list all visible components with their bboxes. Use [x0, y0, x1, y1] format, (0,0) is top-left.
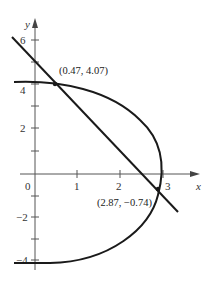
graph: 1 2 3 0 6 4 2 −2 −4 y x (0.47, 4.07) (2.… — [0, 0, 210, 289]
line — [12, 37, 178, 212]
tick-y-2: 2 — [20, 122, 26, 134]
axes — [20, 22, 196, 270]
y-axis-arrow-icon — [32, 18, 38, 28]
tick-y-m4: −4 — [16, 254, 28, 266]
tick-x-1: 1 — [74, 180, 80, 192]
intersection-label-1: (0.47, 4.07) — [59, 65, 108, 77]
intersection-point-2 — [156, 187, 160, 191]
y-axis-label: y — [24, 18, 30, 30]
intersection-point-1 — [53, 82, 57, 86]
tick-y-4: 4 — [20, 84, 26, 96]
tick-y-m2: −2 — [16, 211, 28, 223]
intersection-label-2: (2.87, −0.74) — [97, 197, 152, 209]
tick-x-2: 2 — [116, 180, 122, 192]
x-axis-arrow-icon — [190, 171, 200, 177]
origin-label: 0 — [25, 180, 31, 192]
tick-y-6: 6 — [20, 34, 26, 46]
tick-x-3: 3 — [165, 180, 171, 192]
x-axis-label: x — [195, 180, 201, 192]
